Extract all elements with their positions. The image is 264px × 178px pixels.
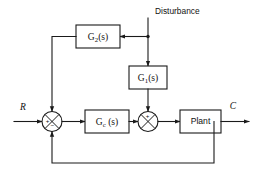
block-g2-group[interactable]: G2(s): [76, 25, 120, 48]
summing-junction-left[interactable]: + −: [42, 112, 62, 132]
block-g1-group[interactable]: G1(s): [129, 66, 167, 89]
block-g1-label: G1(s): [138, 73, 158, 84]
reference-input-label: R: [19, 102, 26, 112]
output-label: C: [230, 101, 237, 111]
summing-junction-right-sign-plus: +: [146, 112, 150, 119]
block-plant-group[interactable]: Plant: [180, 110, 221, 133]
block-gc-group[interactable]: Gc (s): [85, 110, 129, 133]
g2-to-sum-left-group: [52, 37, 76, 112]
block-gc-label: Gc (s): [96, 117, 118, 128]
block-g2-label: G2(s): [88, 32, 108, 43]
block-g2-label-tail: (s): [98, 32, 108, 43]
summing-junction-left-sign-plus: +: [46, 117, 50, 124]
summing-junction-left-sign-minus: −: [51, 122, 55, 129]
disturbance-label: Disturbance: [155, 6, 200, 16]
output-signal-group: C: [221, 101, 249, 121]
disturbance-signal-group: Disturbance: [146, 6, 200, 66]
block-g1-label-tail: (s): [148, 73, 158, 84]
g2-output-wire: [52, 37, 76, 112]
block-diagram-canvas: Disturbance G2(s) G1(s) R: [0, 0, 264, 178]
summing-junction-right[interactable]: +: [138, 112, 158, 132]
block-diagram-svg: Disturbance G2(s) G1(s) R: [0, 0, 264, 178]
reference-input-group: R: [14, 102, 42, 121]
block-gc-label-tail: (s): [106, 117, 118, 128]
block-plant-label: Plant: [191, 116, 211, 126]
